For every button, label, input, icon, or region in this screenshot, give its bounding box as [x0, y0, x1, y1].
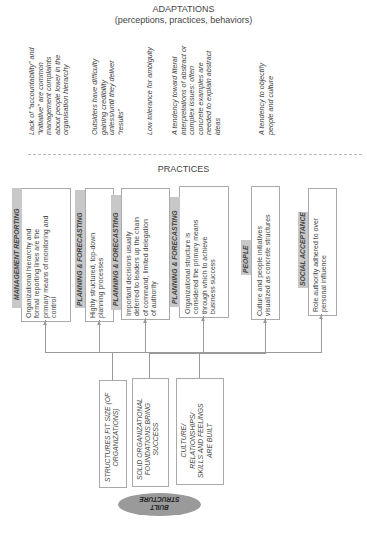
connector	[321, 314, 322, 352]
tag-label: PLANNING & FORECASTING	[112, 212, 121, 306]
connector	[149, 353, 150, 379]
connector	[112, 352, 113, 381]
arrow-up-icon	[263, 319, 267, 323]
adaptation-outsiders: Outsiders have difficultygaining credibi…	[91, 59, 125, 135]
practices-title: PRACTICES	[0, 164, 367, 175]
connector	[145, 318, 146, 352]
connector	[203, 316, 204, 352]
arrow-up-icon	[201, 317, 205, 321]
tag-label: PEOPLE	[242, 245, 251, 273]
core-ellipse-built-structure: BUILTSTRUCTURE	[118, 493, 201, 516]
adaptation-ambiguity: Low tolerance for ambiguity	[146, 47, 155, 135]
practice-text: Organizational hierarchy andformal repor…	[25, 216, 58, 318]
connector	[199, 353, 200, 379]
section-divider	[28, 154, 362, 155]
connector	[265, 318, 266, 352]
tag-label: PLANNING & FORECASTING	[76, 212, 85, 306]
arrow-up-icon	[143, 319, 147, 323]
practice-text: Role authority adhered to overpersonal i…	[312, 218, 329, 312]
practice-text: Organizational structure isconsidered th…	[184, 220, 217, 314]
adaptation-objectify: A tendency to objectifypeople and cultur…	[258, 63, 275, 135]
arrow-up-icon	[43, 321, 47, 325]
practice-text: Highly structured, top-downplanning proc…	[89, 233, 106, 318]
tag-label: SOCIAL ACCEPTANCE	[299, 212, 308, 286]
adaptation-accountability: Lack of “accountability” and“initiative”…	[28, 48, 71, 136]
tag-label: PLANNING & FORECASTING	[171, 210, 180, 304]
belief-text: CULTURE/RELATIONSHIPS/SKILLS AND FEELING…	[180, 403, 214, 478]
practice-text: Important decisions usuallydeferred to l…	[125, 217, 158, 316]
practice-text: Culture and people initiativesvisualized…	[256, 214, 273, 316]
tag-label: MANAGEMENT REPORTING	[13, 208, 22, 300]
adaptations-title: ADAPTATIONS	[0, 4, 367, 15]
belief-text: STRUCTURES FIT SIZE (OFORGANIZATIONS)	[104, 393, 120, 482]
belief-text: SOLID ORGANIZATIONALFOUNDATIONS BRINGSUC…	[136, 398, 160, 480]
adaptation-literal: A tendency toward literalinterpretations…	[171, 46, 223, 136]
adaptations-subtitle: (perceptions, practices, behaviors)	[0, 15, 367, 26]
connector-horizontal	[149, 353, 266, 354]
core-label: BUILTSTRUCTURE	[118, 496, 201, 511]
arrow-up-icon	[319, 315, 323, 319]
arrow-up-icon	[97, 321, 101, 325]
